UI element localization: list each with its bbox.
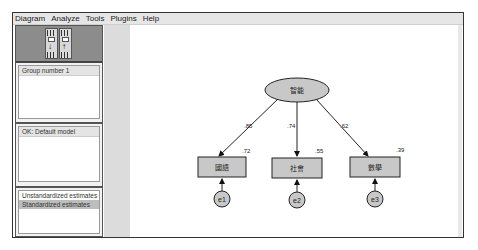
path-diagram: 智能 .85 .74 .62 國語 .72 社會 .55 數學 .39 bbox=[130, 25, 462, 237]
loading-value: .62 bbox=[340, 123, 349, 129]
menu-bar: Diagram Analyze Tools Plugins Help bbox=[13, 13, 463, 25]
grid-icon bbox=[47, 30, 56, 36]
grid-icon bbox=[61, 30, 70, 36]
view-toolbar: ↓ ↑ bbox=[16, 26, 102, 63]
path-diagram-canvas[interactable]: 智能 .85 .74 .62 國語 .72 社會 .55 數學 .39 bbox=[130, 25, 462, 237]
estimates-panel: Unstandardized estimates Standardized es… bbox=[18, 190, 100, 234]
loading-value: .85 bbox=[244, 123, 253, 129]
grid-icon bbox=[61, 52, 70, 58]
model-item[interactable]: OK: Default model bbox=[19, 127, 99, 137]
r-squared: .55 bbox=[315, 148, 324, 154]
loading-value: .74 bbox=[287, 123, 296, 129]
right-scrollbar[interactable] bbox=[458, 25, 462, 237]
error-label: e1 bbox=[218, 196, 226, 203]
divider bbox=[16, 186, 102, 188]
amos-window: Diagram Analyze Tools Plugins Help ↓ ↑ G… bbox=[12, 12, 464, 238]
observed-label: 社會 bbox=[290, 164, 304, 173]
menu-analyze[interactable]: Analyze bbox=[49, 13, 83, 24]
menu-plugins[interactable]: Plugins bbox=[108, 13, 140, 24]
menu-help[interactable]: Help bbox=[141, 13, 163, 24]
divider bbox=[16, 122, 102, 124]
models-panel: OK: Default model bbox=[18, 126, 100, 182]
scroll-gutter bbox=[104, 25, 130, 237]
observed-label: 國語 bbox=[215, 163, 229, 172]
view-output-path-diagram-button[interactable]: ↑ bbox=[59, 28, 72, 59]
menu-diagram[interactable]: Diagram bbox=[13, 13, 49, 24]
menu-tools[interactable]: Tools bbox=[84, 13, 109, 24]
arrow-up-icon: ↑ bbox=[62, 43, 66, 51]
error-label: e2 bbox=[293, 197, 301, 204]
r-squared: .39 bbox=[396, 147, 405, 153]
latent-label: 智能 bbox=[290, 86, 304, 95]
grid-icon bbox=[47, 52, 56, 58]
observed-label: 數學 bbox=[368, 163, 382, 172]
r-squared: .72 bbox=[242, 148, 251, 154]
view-input-path-diagram-button[interactable]: ↓ bbox=[45, 28, 58, 59]
left-panel: ↓ ↑ Group number 1 OK: Default model Uns… bbox=[15, 25, 103, 237]
error-label: e3 bbox=[371, 196, 379, 203]
arrow-down-icon: ↓ bbox=[48, 43, 52, 51]
unstandardized-estimates-item[interactable]: Unstandardized estimates bbox=[19, 191, 99, 200]
group-item[interactable]: Group number 1 bbox=[19, 66, 99, 76]
standardized-estimates-item[interactable]: Standardized estimates bbox=[19, 200, 99, 209]
groups-panel: Group number 1 bbox=[18, 65, 100, 119]
